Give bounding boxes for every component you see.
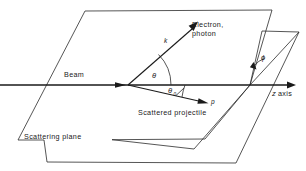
- electron-photon-label-line2: photon: [192, 29, 216, 38]
- theta0-angle-subscript: 0: [174, 92, 177, 97]
- detector-plane-top-edge: [262, 31, 299, 32]
- detector-plane-inner-connector: [112, 140, 194, 149]
- beam-arrowhead: [115, 82, 126, 88]
- theta0-arc: [182, 85, 185, 97]
- p-vector-arrowhead: [197, 98, 208, 103]
- scattering-plane-label: Scattering plane: [24, 132, 82, 141]
- scattering-diagram-figure: Beam Electron, photon k p θ θ 0 ϕ Scatte…: [0, 0, 306, 171]
- beam-axis-group: [0, 82, 296, 89]
- p-vector-label: p: [210, 98, 215, 106]
- diagram-canvas: Beam Electron, photon k p θ θ 0 ϕ Scatte…: [0, 0, 306, 171]
- detector-plane-bottom-edge: [47, 162, 236, 163]
- detector-plane-bottom-left-connector: [44, 140, 47, 162]
- k-vector-group: [128, 22, 198, 86]
- phi-angle-label: ϕ: [261, 53, 265, 62]
- scattering-plane-bottom-edge-right: [112, 139, 205, 140]
- theta-angle-group: [159, 55, 172, 86]
- scattering-plane-top-edge: [85, 10, 272, 11]
- p-vector-line: [128, 85, 203, 102]
- k-vector-line: [128, 29, 192, 85]
- scattering-plane-shape: [18, 10, 272, 140]
- theta0-angle-label: θ: [168, 86, 173, 95]
- theta0-angle-group: [176, 85, 185, 97]
- scattering-plane-right-edge-upper: [250, 10, 272, 85]
- beam-label: Beam: [64, 70, 84, 79]
- theta-arc: [159, 55, 172, 86]
- z-axis-arrowhead: [287, 82, 296, 89]
- electron-photon-label-line1: Electron,: [192, 20, 224, 29]
- k-vector-label: k: [164, 37, 168, 44]
- scattered-projectile-label: Scattered projectile: [138, 108, 207, 117]
- z-axis-word-label: axis: [278, 89, 292, 98]
- theta-angle-label: θ: [152, 71, 157, 80]
- z-axis-symbol-label: z: [271, 89, 276, 98]
- detector-plane-upper-left-edge: [250, 32, 299, 85]
- detector-plane-lower-left-edge: [194, 85, 250, 149]
- detector-plane-shape: [44, 31, 299, 163]
